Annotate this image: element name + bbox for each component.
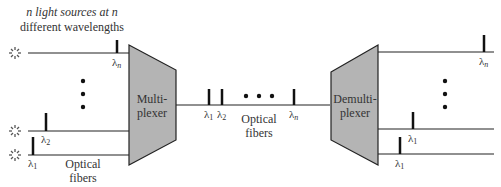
ellipsis-dots — [443, 79, 447, 109]
lambda-1-label: λ1 — [28, 157, 37, 171]
demux-line2: plexer — [340, 106, 370, 120]
ellipsis-dots — [244, 94, 274, 98]
mux-line2: plexer — [137, 106, 167, 120]
light-source-icon — [9, 125, 21, 137]
fiber-mid-line1: Optical — [241, 112, 277, 126]
output-fibers — [378, 52, 494, 154]
lambda-1-out-label-b: λ1 — [395, 157, 404, 171]
fiber-left-line1: Optical — [65, 157, 101, 171]
lambda-1-out-label-a: λ1 — [408, 132, 417, 146]
fiber-left-line2: fibers — [69, 171, 97, 185]
mux-line1: Multi- — [137, 92, 168, 106]
lambda-n-label: λn — [112, 56, 121, 70]
lambda-2-label: λ2 — [41, 133, 50, 147]
lambda-n-out-label: λn — [479, 55, 488, 69]
title-line2: different wavelengths — [20, 20, 124, 34]
light-source-icon — [9, 149, 21, 161]
demux-line1: Demulti- — [333, 92, 376, 106]
wavelength-ticks-trunk — [209, 89, 294, 105]
light-source-icon — [9, 47, 21, 59]
lambda-1-trunk-label: λ1 — [204, 108, 213, 122]
lambda-n-trunk-label: λn — [289, 108, 298, 122]
wdm-diagram: n light sources at n different wavelengt… — [0, 0, 501, 187]
title-line1: n light sources at n — [26, 5, 118, 19]
lambda-2-trunk-label: λ2 — [217, 108, 226, 122]
fiber-mid-line2: fibers — [245, 126, 273, 140]
ellipsis-dots — [81, 79, 85, 109]
